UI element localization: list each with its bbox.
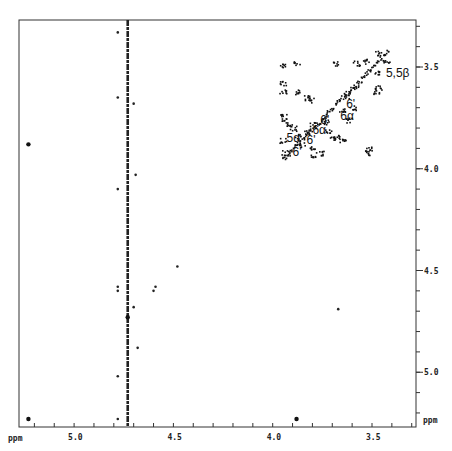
y-tick-label: 3.5 bbox=[424, 63, 439, 72]
peak-label: 6' bbox=[306, 133, 315, 147]
peak-label: 5,5β bbox=[386, 66, 410, 80]
y-tick-label: 4.5 bbox=[424, 267, 439, 276]
y-tick-label: 5.0 bbox=[424, 368, 439, 377]
nmr-2d-plot: 5.04.54.03.5 3.54.04.55.0 ppm ppm 5,5β6'… bbox=[0, 0, 452, 451]
peak-label: 6α bbox=[340, 109, 354, 123]
x-axis-unit-label: ppm bbox=[8, 434, 23, 443]
x-axis-tick-labels: 5.04.54.03.5 bbox=[68, 433, 381, 442]
peak-label: 6' bbox=[293, 145, 302, 159]
x-axis-ticks bbox=[34, 423, 411, 427]
isolated-peaks bbox=[26, 31, 339, 421]
y-axis-ticks bbox=[416, 26, 420, 413]
x-tick-label: 5.0 bbox=[68, 433, 83, 442]
plot-frame bbox=[19, 20, 416, 427]
x-tick-label: 4.5 bbox=[167, 433, 182, 442]
y-axis-tick-labels: 3.54.04.55.0 bbox=[416, 63, 439, 377]
peak-label: 5α bbox=[287, 131, 301, 145]
x-tick-label: 3.5 bbox=[366, 433, 381, 442]
y-tick-label: 4.0 bbox=[424, 165, 439, 174]
x-tick-label: 4.0 bbox=[267, 433, 282, 442]
y-axis-unit-label: ppm bbox=[423, 416, 438, 425]
